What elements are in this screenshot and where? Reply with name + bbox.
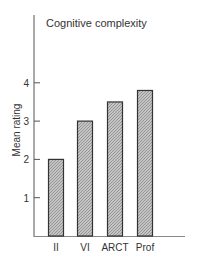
y-ticks: 1234 [23, 78, 40, 204]
bar-arct [108, 102, 123, 236]
y-tick-label: 3 [23, 116, 29, 127]
bar-prof [138, 90, 153, 236]
x-tick-label: ARCT [101, 242, 128, 253]
y-tick-label: 1 [23, 193, 29, 204]
bars [49, 90, 153, 236]
bar-ii [49, 159, 64, 236]
y-axis-label: Mean rating [11, 104, 22, 157]
bar-vi [78, 121, 93, 236]
x-tick-labels: IIVIARCTProf [53, 242, 154, 253]
bar-chart: Cognitive complexity Mean rating 1234 II… [0, 0, 199, 262]
chart-title: Cognitive complexity [46, 17, 147, 29]
x-tick-label: Prof [136, 242, 155, 253]
x-tick-label: II [53, 242, 59, 253]
y-tick-label: 2 [23, 154, 29, 165]
x-tick-label: VI [80, 242, 89, 253]
y-tick-label: 4 [23, 78, 29, 89]
